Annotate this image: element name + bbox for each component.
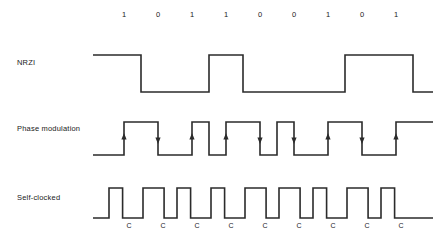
arrow-up-icon (325, 133, 330, 140)
arrow-down-icon (359, 138, 364, 145)
arrow-down-icon (257, 138, 262, 145)
self-clocked-waveform-path (93, 188, 433, 218)
arrow-up-icon (223, 133, 228, 140)
arrow-down-icon (155, 138, 160, 145)
arrow-up-icon (121, 133, 126, 140)
nrzi-waveform-path (93, 55, 433, 92)
encoding-waveform-diagram: NRZI Phase modulation Self-clocked 10110… (0, 0, 433, 238)
phase-waveform-path (93, 122, 433, 155)
arrow-up-icon (189, 133, 194, 140)
arrow-up-icon (393, 133, 398, 140)
arrow-down-icon (291, 138, 296, 145)
waveform-canvas (0, 0, 433, 238)
